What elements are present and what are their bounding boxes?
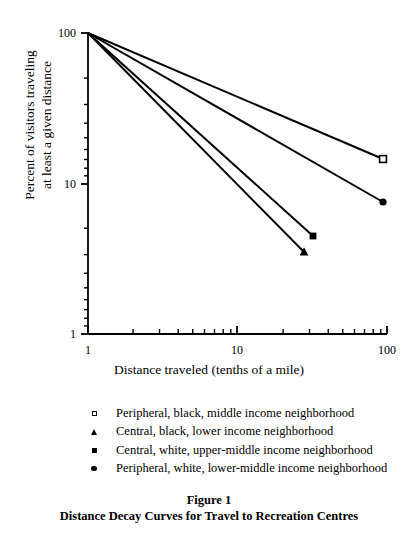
legend-label: Central, white, upper-middle income neig…: [102, 443, 373, 458]
y-axis-title-line1: Percent of visitors traveling: [21, 0, 38, 255]
series-line-peripheral-black-middle: [88, 33, 383, 159]
x-tick-label-1: 1: [85, 343, 91, 357]
chart-legend: Peripheral, black, middle income neighbo…: [86, 404, 386, 478]
series-line-peripheral-white-lower-middle: [88, 33, 383, 202]
filled-square-icon: [310, 233, 317, 240]
x-tick-label-100: 100: [378, 343, 396, 357]
legend-label: Peripheral, white, lower-middle income n…: [102, 461, 387, 476]
y-tick-label-100: 100: [58, 26, 76, 40]
filled-circle-icon: [379, 198, 386, 205]
legend-label: Central, black, lower income neighborhoo…: [102, 424, 333, 439]
legend-item-peripheral-black-middle: Peripheral, black, middle income neighbo…: [86, 404, 386, 423]
figure-caption-title: Distance Decay Curves for Travel to Recr…: [0, 508, 418, 524]
x-tick-label-10: 10: [231, 343, 243, 357]
legend-label: Peripheral, black, middle income neighbo…: [102, 406, 354, 421]
legend-filled-square-icon: [86, 448, 102, 453]
legend-item-central-black-lower: Central, black, lower income neighborhoo…: [86, 423, 386, 442]
series-line-central-white-upper-middle: [88, 33, 313, 236]
figure-caption-number: Figure 1: [0, 492, 418, 508]
legend-item-peripheral-white-lower-middle: Peripheral, white, lower-middle income n…: [86, 460, 386, 479]
plot-area: 100 10 1 1 10 100 Percent of visitors tr…: [0, 0, 418, 400]
open-square-icon: [380, 156, 387, 163]
legend-filled-triangle-icon: [86, 429, 102, 435]
x-axis-title: Distance traveled (tenths of a mile): [0, 362, 418, 378]
chart-svg: 100 10 1 1 10 100: [0, 0, 418, 400]
y-axis-title-line2: at least a given distance: [38, 0, 55, 255]
legend-filled-circle-icon: [86, 466, 102, 471]
y-tick-label-10: 10: [64, 177, 76, 191]
legend-item-central-white-upper-middle: Central, white, upper-middle income neig…: [86, 441, 386, 460]
legend-open-square-icon: [86, 411, 102, 416]
figure-caption: Figure 1 Distance Decay Curves for Trave…: [0, 492, 418, 524]
y-axis-title: Percent of visitors traveling at least a…: [21, 0, 55, 255]
series-line-central-black-lower: [88, 33, 304, 252]
y-tick-label-1: 1: [70, 327, 76, 341]
figure-container: 100 10 1 1 10 100 Percent of visitors tr…: [0, 0, 418, 546]
